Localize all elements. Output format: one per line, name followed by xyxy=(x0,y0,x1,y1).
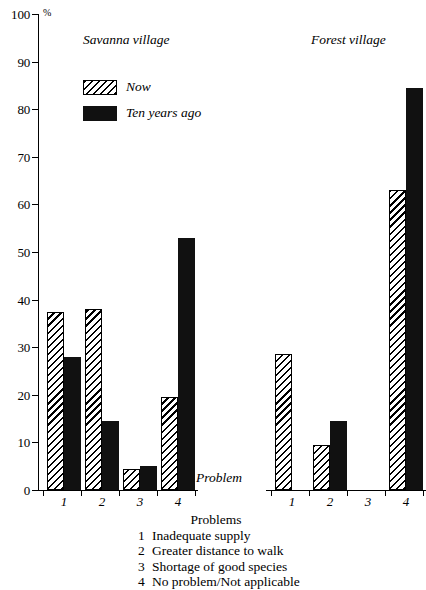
problems-key-heading: Problems xyxy=(0,512,426,528)
x-axis-tick-label: 1 xyxy=(54,495,74,509)
x-axis-tick xyxy=(119,490,120,496)
x-axis-tick xyxy=(157,490,158,496)
problems-key-item-text: Greater distance to walk xyxy=(152,543,284,558)
bar xyxy=(389,190,406,490)
problems-key-item-number: 3 xyxy=(138,559,152,575)
x-axis-tick-label: 4 xyxy=(168,495,188,509)
problems-key-item: 1Inadequate supply xyxy=(0,528,426,544)
problems-key-item-number: 2 xyxy=(138,543,152,559)
x-axis-tick-label: 3 xyxy=(130,495,150,509)
bar xyxy=(406,88,423,490)
problems-key-item: 2Greater distance to walk xyxy=(0,543,426,559)
x-axis-tick xyxy=(309,490,310,496)
x-axis-tick xyxy=(423,490,424,496)
x-axis-line xyxy=(266,490,426,491)
x-axis-tick xyxy=(43,490,44,496)
problems-key-list: 1Inadequate supply2Greater distance to w… xyxy=(0,528,426,590)
problems-key-item-number: 4 xyxy=(138,574,152,590)
problems-key-item-number: 1 xyxy=(138,528,152,544)
x-axis-tick xyxy=(195,490,196,496)
x-axis-tick-label: 2 xyxy=(92,495,112,509)
bar xyxy=(313,445,330,490)
x-axis-tick xyxy=(81,490,82,496)
bar xyxy=(275,354,292,490)
problems-key-item: 3Shortage of good species xyxy=(0,559,426,575)
problems-key: Problems 1Inadequate supply2Greater dist… xyxy=(0,512,426,590)
bars-layer xyxy=(0,0,426,490)
x-axis-caption: Problem xyxy=(196,470,242,486)
x-axis-tick xyxy=(271,490,272,496)
problems-key-item-text: No problem/Not applicable xyxy=(152,574,300,589)
problems-key-item-text: Shortage of good species xyxy=(152,559,287,574)
bar xyxy=(330,421,347,490)
x-axis-tick-label: 2 xyxy=(320,495,340,509)
x-axis-tick xyxy=(385,490,386,496)
x-axis-tick-label: 4 xyxy=(396,495,416,509)
problems-key-item-text: Inadequate supply xyxy=(152,528,251,543)
x-axis-tick xyxy=(347,490,348,496)
x-axis-tick-label: 1 xyxy=(282,495,302,509)
x-axis-line xyxy=(38,490,198,491)
x-axis-tick-label: 3 xyxy=(358,495,378,509)
problems-key-item: 4No problem/Not applicable xyxy=(0,574,426,590)
